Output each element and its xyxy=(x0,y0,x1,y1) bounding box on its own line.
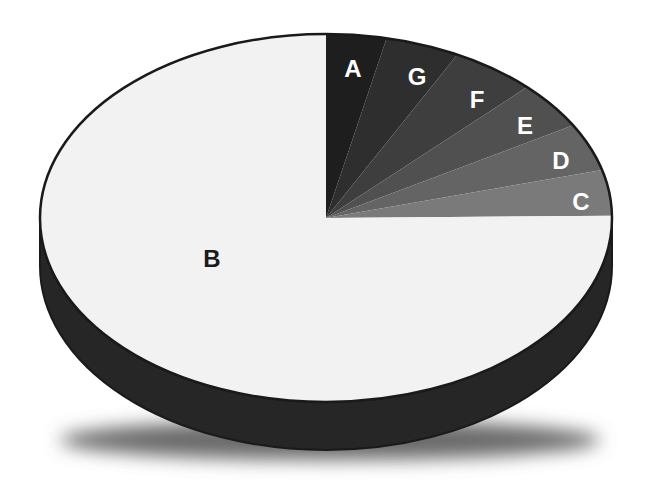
slice-label-c: C xyxy=(572,188,589,215)
slice-label-b: B xyxy=(203,245,220,272)
slice-label-e: E xyxy=(517,112,533,139)
pie-slices xyxy=(40,34,612,402)
pie-chart-3d: A G F E D C B xyxy=(0,0,647,492)
slice-label-d: D xyxy=(552,147,569,174)
slice-label-a: A xyxy=(344,55,361,82)
slice-label-f: F xyxy=(470,86,485,113)
slice-label-g: G xyxy=(408,63,427,90)
